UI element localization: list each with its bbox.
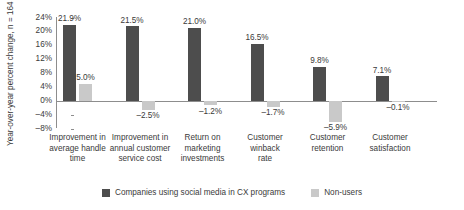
bar-value-label: 7.1% xyxy=(362,66,402,75)
x-axis-category-label: Customerwinbackrate xyxy=(232,133,298,165)
bar[interactable] xyxy=(126,26,139,101)
bar[interactable] xyxy=(329,101,342,122)
category-label-line: satisfaction xyxy=(357,144,423,155)
x-axis-category-label: Improvement inannual customerservice cos… xyxy=(107,133,173,165)
plot-area: 21.9%5.0%Improvement inaverage handletim… xyxy=(0,0,464,210)
category-label-line: Improvement in xyxy=(45,133,111,144)
category-label-line: retention xyxy=(295,144,361,155)
x-axis-category-label: Customersatisfaction xyxy=(357,133,423,154)
category-label-line: Improvement in xyxy=(107,133,173,144)
bar-value-label: 16.5% xyxy=(237,33,277,42)
category-label-line: marketing xyxy=(170,144,236,155)
bar-value-label: 21.9% xyxy=(50,14,90,23)
legend-label-social-media-users: Companies using social media in CX progr… xyxy=(115,188,285,197)
category-label-line: Customer xyxy=(232,133,298,144)
category-label-line: Return on xyxy=(170,133,236,144)
legend-item-non-users[interactable]: Non-users xyxy=(311,188,362,197)
bar[interactable] xyxy=(188,28,201,101)
bar-value-label: 21.0% xyxy=(175,17,215,26)
bar-value-label: 21.5% xyxy=(112,16,152,25)
bar-value-label: –1.7% xyxy=(253,108,293,117)
bar[interactable] xyxy=(63,25,76,101)
bar-value-label: –5.9% xyxy=(316,123,356,132)
chart-legend: Companies using social media in CX progr… xyxy=(0,188,464,197)
bar[interactable] xyxy=(204,101,217,105)
legend-item-social-media-users[interactable]: Companies using social media in CX progr… xyxy=(102,188,285,197)
x-axis-category-label: Improvement inaverage handletime xyxy=(45,133,111,165)
legend-swatch-icon-dark xyxy=(102,189,110,197)
category-label-line: time xyxy=(45,154,111,165)
category-label-line: average handle xyxy=(45,144,111,155)
bar[interactable] xyxy=(79,84,92,101)
bar[interactable] xyxy=(142,101,155,110)
bar[interactable] xyxy=(376,76,389,101)
category-label-line: rate xyxy=(232,154,298,165)
category-label-line: Customer xyxy=(295,133,361,144)
category-label-line: investments xyxy=(170,154,236,165)
x-axis-category-label: Return onmarketinginvestments xyxy=(170,133,236,165)
bar[interactable] xyxy=(313,67,326,101)
bar-value-label: –2.5% xyxy=(128,111,168,120)
bar[interactable] xyxy=(392,101,405,102)
category-label-line: annual customer xyxy=(107,144,173,155)
legend-label-non-users: Non-users xyxy=(324,188,362,197)
bar-value-label: –1.2% xyxy=(191,107,231,116)
category-label-line: service cost xyxy=(107,154,173,165)
category-label-line: Customer xyxy=(357,133,423,144)
bar-value-label: 5.0% xyxy=(66,73,106,82)
bar[interactable] xyxy=(251,44,264,101)
legend-swatch-icon-light xyxy=(311,189,319,197)
x-axis-category-label: Customerretention xyxy=(295,133,361,154)
bar-value-label: –0.1% xyxy=(378,103,418,112)
bar[interactable] xyxy=(267,101,280,107)
bar-value-label: 9.8% xyxy=(300,56,340,65)
category-label-line: winback xyxy=(232,144,298,155)
